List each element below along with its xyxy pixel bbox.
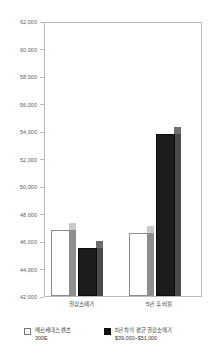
y-tick-label: 42,000 — [20, 292, 37, 302]
legend: 메르세데스 벤츠 300E 5년 차의 평균 권장소매가 $39,000~$51… — [24, 326, 214, 348]
y-tick-label: 48,000 — [20, 210, 37, 220]
legend-label-0: 메르세데스 벤츠 300E — [35, 326, 72, 342]
bars-layer — [45, 23, 201, 296]
y-tick-label: 54,000 — [20, 127, 37, 137]
y-tick: 44,000 — [0, 265, 44, 275]
bar-top-face — [69, 223, 76, 230]
y-tick: 62,000 — [0, 17, 44, 27]
y-tick-label: 62,000 — [20, 17, 37, 27]
bar-front-face — [156, 134, 175, 296]
y-axis: 62,000 60,000 58,000 56,000 54,000 52,00… — [0, 22, 44, 297]
bar-front-face — [78, 248, 97, 296]
y-tick-label: 60,000 — [20, 45, 37, 55]
bar-side-face — [174, 134, 181, 296]
y-tick: 50,000 — [0, 182, 44, 192]
y-tick-label: 46,000 — [20, 237, 37, 247]
legend-label-0-line2: 300E — [35, 334, 72, 342]
bar-top-face — [174, 127, 181, 134]
legend-label-1: 5년 차의 평균 권장소매가 $39,000~$51,000 — [115, 326, 173, 342]
y-tick: 48,000 — [0, 210, 44, 220]
bar-group-1 — [129, 23, 191, 296]
bar-side-face — [69, 230, 76, 296]
legend-label-0-line1: 메르세데스 벤츠 — [35, 327, 72, 333]
bar-top-face — [96, 241, 103, 248]
bar-chart: 62,000 60,000 58,000 56,000 54,000 52,00… — [0, 0, 220, 360]
legend-label-1-line2: $39,000~$51,000 — [115, 334, 173, 342]
y-tick: 54,000 — [0, 127, 44, 137]
y-tick-label: 50,000 — [20, 182, 37, 192]
x-tick-label-1: 5년 후 비율 — [128, 300, 190, 308]
bar-side-face — [147, 233, 154, 296]
legend-label-1-line1: 5년 차의 평균 권장소매가 — [115, 327, 173, 333]
bar-front-face — [51, 230, 70, 296]
y-tick-label: 56,000 — [20, 100, 37, 110]
bar-top-face — [147, 226, 154, 233]
legend-swatch-icon — [104, 328, 111, 335]
bar-front-face — [129, 233, 148, 296]
bar-group-0 — [51, 23, 113, 296]
y-tick: 58,000 — [0, 72, 44, 82]
legend-swatch-icon — [24, 328, 31, 335]
y-tick-label: 44,000 — [20, 265, 37, 275]
y-tick: 46,000 — [0, 237, 44, 247]
y-tick: 42,000 — [0, 292, 44, 302]
y-tick: 52,000 — [0, 155, 44, 165]
y-tick-label: 58,000 — [20, 72, 37, 82]
bar-side-face — [96, 248, 103, 296]
x-axis: 권장소매가 5년 후 비율 — [44, 300, 202, 314]
y-tick: 56,000 — [0, 100, 44, 110]
y-tick: 60,000 — [0, 45, 44, 55]
x-tick-label-0: 권장소매가 — [50, 300, 112, 308]
y-tick-label: 52,000 — [20, 155, 37, 165]
